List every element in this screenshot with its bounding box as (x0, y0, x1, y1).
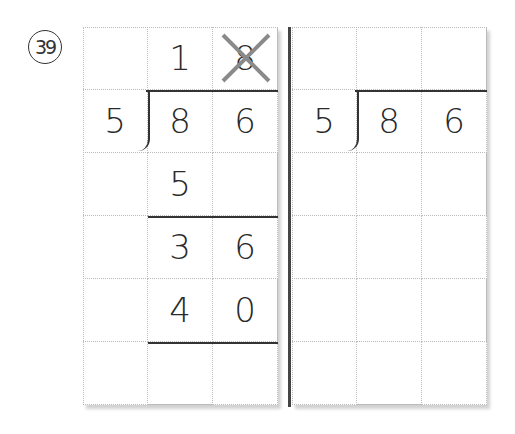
work_grid-cell (83, 27, 148, 90)
work_grid-cell: 8 (148, 90, 213, 153)
work-grid: 1858653640 (83, 27, 278, 405)
answer_grid-cell[interactable]: 8 (357, 90, 422, 153)
answer_grid-cell[interactable] (357, 279, 422, 342)
answer_grid-cell[interactable] (422, 27, 487, 90)
answer_grid-cell[interactable] (357, 153, 422, 216)
work_grid-cell (83, 342, 148, 405)
work_grid-cell: 3 (148, 216, 213, 279)
division-bracket (138, 91, 150, 151)
work_grid-cell: 5 (148, 153, 213, 216)
answer_grid-cell[interactable]: 6 (422, 90, 487, 153)
answer_grid-cell[interactable] (422, 279, 487, 342)
work_grid-cell (83, 153, 148, 216)
subtraction-line (148, 216, 278, 218)
work_grid-cell: 1 (148, 27, 213, 90)
work_grid-cell (213, 342, 278, 405)
cross-out-icon (213, 27, 278, 90)
answer_grid-cell[interactable] (292, 342, 357, 405)
answer_grid-cell[interactable] (422, 216, 487, 279)
work_grid-cell: 4 (148, 279, 213, 342)
work_grid-cell (213, 153, 278, 216)
problem-number: 39 (28, 30, 62, 64)
work_grid-cell: 6 (213, 90, 278, 153)
work_grid-cell (83, 279, 148, 342)
answer_grid-cell[interactable] (422, 153, 487, 216)
answer_grid-cell[interactable] (292, 27, 357, 90)
answer_grid-cell[interactable] (357, 27, 422, 90)
work_grid-cell: 6 (213, 216, 278, 279)
answer_grid-cell[interactable] (292, 279, 357, 342)
division-bar (355, 90, 487, 92)
answer_grid-cell[interactable] (357, 216, 422, 279)
answer_grid-cell[interactable] (357, 342, 422, 405)
answer_grid-cell[interactable] (292, 216, 357, 279)
subtraction-line (148, 342, 278, 344)
vertical-divider (288, 27, 291, 407)
division-bracket (347, 91, 359, 151)
work_grid-cell: 0 (213, 279, 278, 342)
answer_grid-cell[interactable] (292, 153, 357, 216)
work_grid-cell (83, 216, 148, 279)
work_grid-cell (148, 342, 213, 405)
answer-grid: 586 (292, 27, 487, 405)
division-bar (146, 90, 278, 92)
answer_grid-cell[interactable] (422, 342, 487, 405)
